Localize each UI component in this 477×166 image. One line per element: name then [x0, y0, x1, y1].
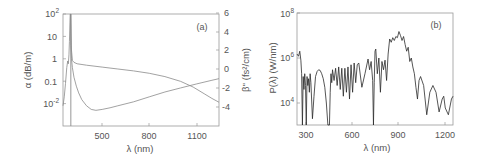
y-axis-label: P(λ) (W/nm)	[267, 42, 278, 93]
y-tick-label: 0.1	[44, 77, 57, 87]
x-tick-label: 800	[141, 131, 156, 141]
spectrum-curve	[297, 32, 453, 125]
panel-a: 102 10 1 0.1 10-2 6 4 2 0 -2 -4 500 800 …	[22, 7, 251, 154]
y-tick-label: 10-2	[43, 97, 59, 109]
panel-tag-a: (a)	[197, 22, 208, 32]
y-tick-label: 108	[280, 7, 294, 19]
x-tick-label: 300	[298, 130, 313, 140]
x-axis-label: λ (nm)	[127, 143, 154, 154]
x-tick-label: 600	[344, 130, 359, 140]
y-right-tick-label: 2	[224, 45, 229, 55]
y-tick-label: 104	[280, 96, 294, 108]
x-tick-label: 1200	[435, 130, 455, 140]
y-right-axis-label: β'' (fs²/cm)	[240, 48, 251, 92]
y-right-tick-label: -4	[222, 102, 230, 112]
plot-area-b	[297, 32, 453, 125]
x-axis-label: λ (nm)	[364, 142, 391, 153]
panel-b: 108 106 104 300 600 900 1200 λ (nm) P(λ)…	[267, 7, 455, 153]
panel-tag-b: (b)	[431, 20, 442, 30]
x-tick-label: 1100	[187, 131, 206, 141]
y-tick-label: 1	[52, 54, 57, 64]
x-tick-label: 500	[94, 131, 109, 141]
y-right-tick-label: -2	[222, 83, 230, 93]
y-tick-label: 106	[280, 51, 294, 63]
y-tick-label: 10	[47, 32, 57, 42]
y-right-tick-label: 6	[224, 8, 229, 18]
y-right-tick-label: 0	[224, 64, 229, 74]
figure: 102 10 1 0.1 10-2 6 4 2 0 -2 -4 500 800 …	[0, 0, 477, 166]
y-axis-label: α (dB/m)	[22, 52, 33, 89]
y-tick-label: 102	[45, 7, 59, 19]
x-tick-label: 900	[390, 130, 405, 140]
y-right-tick-label: 4	[224, 27, 229, 37]
